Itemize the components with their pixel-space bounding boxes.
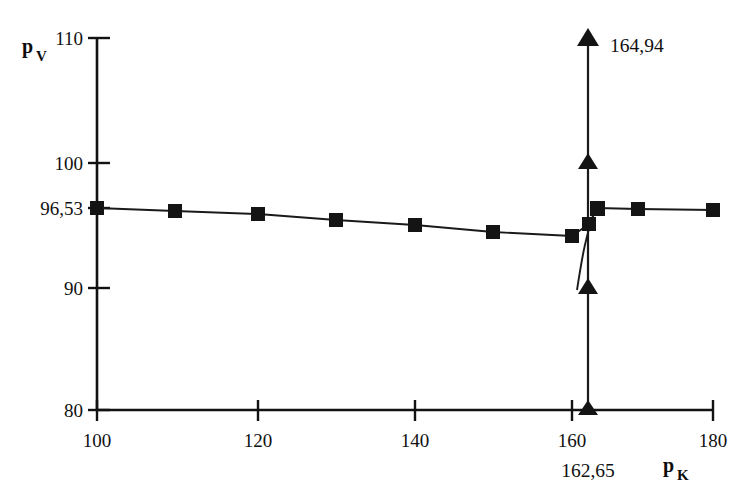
y-tick-label-80: 80	[64, 400, 83, 421]
triangle-marker-90	[578, 278, 598, 294]
data-point-marker	[631, 202, 645, 216]
x-tick-label-120: 120	[244, 430, 273, 451]
annotation-top-value: 164,94	[610, 35, 664, 56]
data-point-marker	[329, 213, 343, 227]
chart-svg: 110 100 96,53 90 80 100 120 140 160 180 …	[0, 0, 754, 498]
x-tick-label-160: 160	[558, 430, 587, 451]
data-point-marker	[590, 201, 605, 216]
y-tick-label-9653: 96,53	[40, 198, 83, 219]
y-tick-label-100: 100	[55, 153, 84, 174]
data-point-marker	[582, 217, 596, 231]
data-point-marker	[706, 203, 720, 217]
data-point-marker	[565, 229, 579, 243]
data-point-marker	[168, 204, 182, 218]
y-tick-label-90: 90	[64, 278, 83, 299]
x-tick-label-180: 180	[699, 430, 728, 451]
pv-curve-markers	[90, 201, 720, 243]
data-point-marker	[251, 207, 265, 221]
triangle-marker-80	[578, 400, 598, 415]
data-point-marker	[486, 225, 500, 239]
data-point-marker	[408, 218, 422, 232]
x-tick-label-140: 140	[401, 430, 430, 451]
x-axis-title-symbol: p	[663, 454, 674, 477]
x-axis-title-subscript: K	[677, 467, 689, 483]
data-point-marker	[90, 201, 104, 215]
triangle-marker-100	[578, 153, 598, 169]
chart-figure: 110 100 96,53 90 80 100 120 140 160 180 …	[0, 0, 754, 498]
triangle-marker-110	[577, 28, 599, 46]
y-axis-title-symbol: p	[22, 35, 33, 58]
y-axis-title-subscript: V	[36, 48, 47, 64]
x-tick-label-100: 100	[83, 430, 112, 451]
y-tick-label-110: 110	[55, 28, 83, 49]
annotation-bottom-value: 162,65	[561, 460, 615, 481]
pv-curve-line	[97, 208, 713, 236]
